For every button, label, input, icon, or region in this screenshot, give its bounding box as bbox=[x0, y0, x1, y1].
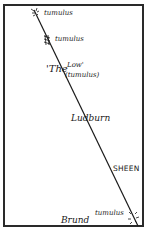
label-sheen: SHEEN bbox=[113, 165, 140, 173]
label-brund: Brund bbox=[61, 216, 89, 225]
label-ludburn: Ludburn bbox=[71, 114, 110, 123]
label-tumulus-bottom: tumulus bbox=[95, 210, 124, 217]
label-low: Low' bbox=[67, 62, 84, 69]
label-tumulus-top: tumulus bbox=[44, 10, 73, 17]
label-low-tumulus: (tumulus) bbox=[65, 72, 99, 79]
label-tumulus-second: tumulus bbox=[55, 36, 84, 43]
